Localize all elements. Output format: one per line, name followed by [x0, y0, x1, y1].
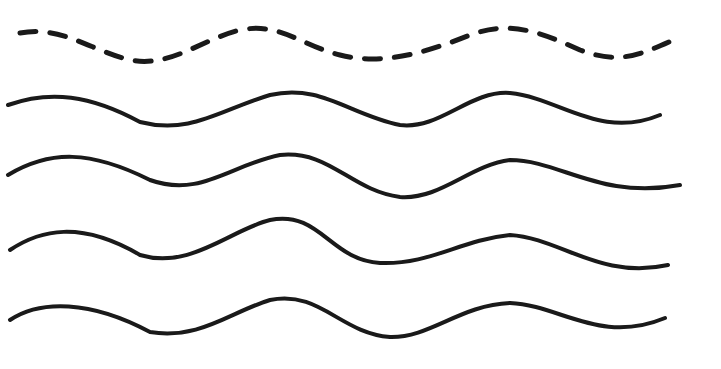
dashed-wave-line — [20, 28, 680, 61]
solid-wave-line-4 — [10, 298, 665, 337]
wave-lines-diagram — [0, 0, 721, 369]
solid-wave-line-2 — [8, 155, 680, 198]
solid-wave-line-3 — [10, 219, 668, 269]
solid-wave-line-1 — [8, 92, 660, 125]
